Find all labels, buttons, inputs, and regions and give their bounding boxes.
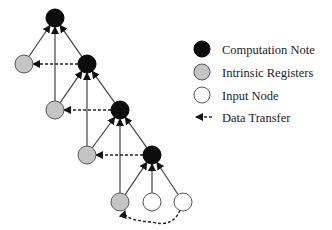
legend-label-computation-note: Computation Note [222,43,315,57]
legend-label-input-node: Input Node [222,89,279,103]
legend-label-data-transfer: Data Transfer [222,111,290,125]
legend: Computation Note Intrinsic Registers Inp… [0,0,332,230]
legend-label-intrinsic-registers: Intrinsic Registers [222,66,313,80]
